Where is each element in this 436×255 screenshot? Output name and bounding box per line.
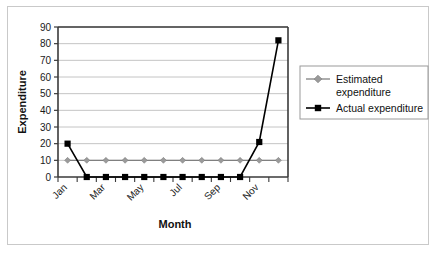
legend-label-estimated-line2: expenditure bbox=[336, 86, 391, 98]
data-point-square-marker bbox=[141, 174, 147, 180]
data-point-square-marker bbox=[256, 139, 262, 145]
data-point-square-marker bbox=[237, 174, 243, 180]
data-point-square-marker bbox=[84, 174, 90, 180]
data-point-square-marker bbox=[199, 174, 205, 180]
data-point-square-marker bbox=[103, 174, 109, 180]
data-point-square-marker bbox=[218, 174, 224, 180]
square-marker-icon bbox=[315, 105, 321, 111]
y-axis-tick-label: 70 bbox=[40, 55, 52, 66]
y-axis-tick-label: 20 bbox=[40, 138, 52, 149]
x-axis-tick-labels-group: JanMarMayJulSepNov bbox=[50, 181, 261, 203]
y-axis-tick-label: 0 bbox=[45, 172, 51, 183]
legend-label-actual-line1: Actual expenditure bbox=[336, 102, 423, 114]
y-axis-ticks-group: 0102030405060708090 bbox=[40, 22, 58, 183]
data-point-square-marker bbox=[160, 174, 166, 180]
expenditure-line-chart: 0102030405060708090 JanMarMayJulSepNov E… bbox=[0, 0, 436, 255]
y-axis-tick-label: 90 bbox=[40, 22, 52, 33]
x-axis-tick-label: Jul bbox=[167, 182, 184, 199]
x-axis-tick-label: Nov bbox=[240, 182, 260, 202]
screenshot-root: 0102030405060708090 JanMarMayJulSepNov E… bbox=[0, 0, 436, 255]
x-axis-tick-label: May bbox=[125, 182, 146, 203]
y-axis-tick-label: 10 bbox=[40, 155, 52, 166]
legend-label-estimated-line1: Estimated bbox=[336, 73, 383, 85]
y-axis-tick-label: 80 bbox=[40, 38, 52, 49]
y-axis-tick-label: 60 bbox=[40, 72, 52, 83]
y-axis-tick-label: 40 bbox=[40, 105, 52, 116]
x-axis-title: Month bbox=[159, 218, 192, 230]
x-axis-tick-label: Jan bbox=[50, 182, 69, 201]
chart-legend: Estimated expenditure Actual expenditure bbox=[300, 66, 428, 119]
data-point-square-marker bbox=[275, 37, 281, 43]
y-axis-tick-label: 50 bbox=[40, 88, 52, 99]
data-point-square-marker bbox=[122, 174, 128, 180]
plot-area-background bbox=[58, 27, 288, 177]
x-axis-tick-label: Mar bbox=[87, 181, 107, 201]
data-point-square-marker bbox=[179, 174, 185, 180]
y-axis-tick-label: 30 bbox=[40, 122, 52, 133]
x-axis-tick-label: Sep bbox=[202, 181, 223, 202]
y-axis-title: Expenditure bbox=[16, 70, 28, 134]
data-point-square-marker bbox=[64, 141, 70, 147]
